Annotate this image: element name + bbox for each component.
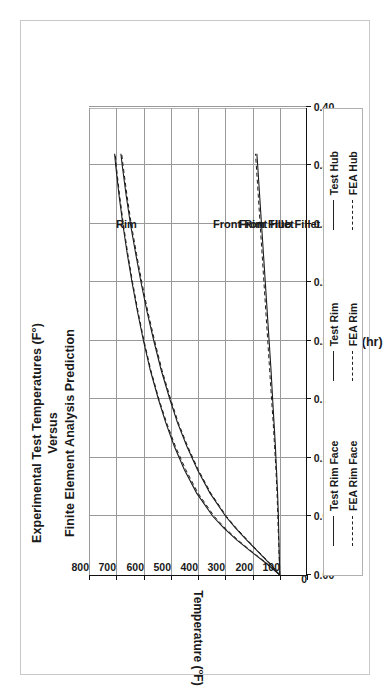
series-line bbox=[114, 154, 279, 575]
x-tick-label: 0.00 bbox=[304, 575, 324, 587]
legend-label: Test Rim Face bbox=[327, 441, 339, 511]
chart-figure: Experimental Test Temperatures (F°) Vers… bbox=[23, 28, 369, 668]
plot-area: RimFront Rim FilletFront Hub Fillet 0.00… bbox=[89, 108, 307, 576]
legend-item: Test Rim bbox=[327, 266, 339, 417]
x-tick-label: 0.10 bbox=[304, 458, 324, 470]
legend-item: Test Rim Face bbox=[327, 418, 339, 569]
data-curves bbox=[89, 107, 307, 575]
legend-item: FEA Hub bbox=[346, 115, 358, 266]
series-line bbox=[121, 154, 279, 575]
legend-label: FEA Hub bbox=[346, 151, 358, 195]
y-tick-label: 600 bbox=[125, 561, 143, 573]
y-tick-label: 400 bbox=[180, 561, 198, 573]
y-tick-label: 500 bbox=[153, 561, 171, 573]
x-tick-label: 0.30 bbox=[304, 224, 324, 236]
y-tick-label: 300 bbox=[207, 561, 225, 573]
title-line-1: Experimental Test Temperatures (F°) bbox=[29, 198, 45, 668]
scanned-page: Experimental Test Temperatures (F°) Vers… bbox=[0, 0, 391, 696]
legend-item: Test Hub bbox=[327, 115, 339, 266]
x-tick-label: 0.05 bbox=[304, 517, 324, 529]
y-tick-label: 700 bbox=[98, 561, 116, 573]
series-line bbox=[120, 154, 279, 575]
x-tick-label: 0.25 bbox=[304, 283, 324, 295]
y-tick-label: 200 bbox=[234, 561, 252, 573]
legend-item: FEA Rim bbox=[346, 266, 358, 417]
y-title-tail: F) bbox=[190, 674, 204, 685]
series-line bbox=[115, 154, 280, 575]
chart-legend: Test Rim FaceTest RimTest HubFEA Rim Fac… bbox=[323, 108, 363, 576]
x-tick-label: 0.40 bbox=[304, 107, 324, 119]
legend-swatch-line bbox=[352, 351, 353, 381]
legend-label: FEA Rim Face bbox=[346, 441, 358, 511]
annotation-rim: Rim bbox=[116, 218, 137, 230]
x-tick-label: 0.15 bbox=[304, 400, 324, 412]
legend-label: Test Hub bbox=[327, 151, 339, 195]
y-tick-label: 800 bbox=[71, 561, 89, 573]
y-title-main: Temperature ( bbox=[190, 590, 204, 669]
legend-item: FEA Rim Face bbox=[346, 418, 358, 569]
x-tick-label: 0.20 bbox=[304, 341, 324, 353]
legend-swatch-line bbox=[333, 200, 334, 230]
y-tick-label: 100 bbox=[262, 561, 280, 573]
legend-swatch-line bbox=[333, 351, 334, 381]
legend-label: Test Rim bbox=[327, 303, 339, 347]
series-line bbox=[255, 154, 279, 575]
legend-swatch-line bbox=[352, 516, 353, 546]
title-line-2: Versus bbox=[45, 198, 61, 668]
y-axis-title: Temperature (oF) bbox=[89, 575, 307, 576]
title-line-3: Finite Element Analysis Prediction bbox=[61, 198, 77, 668]
legend-swatch-line bbox=[333, 516, 334, 546]
legend-items: Test Rim FaceTest RimTest HubFEA Rim Fac… bbox=[324, 109, 362, 575]
legend-label: FEA Rim bbox=[346, 303, 358, 346]
chart-title: Experimental Test Temperatures (F°) Vers… bbox=[29, 198, 78, 668]
x-tick-label: 0.35 bbox=[304, 166, 324, 178]
legend-swatch-line bbox=[352, 200, 353, 230]
